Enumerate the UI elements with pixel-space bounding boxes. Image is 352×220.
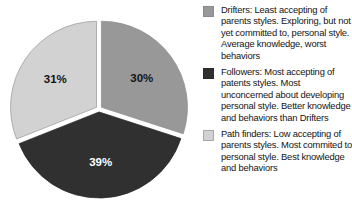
legend-swatch-drifters [203,6,214,17]
pie-svg: 30% 39% 31% [0,0,200,220]
pie-slices [11,21,188,198]
chart-legend: Drifters: Least accepting of parents sty… [203,4,352,216]
legend-swatch-path-finders [203,130,214,141]
legend-label-followers: Followers: Most accepting of patents sty… [221,66,352,123]
legend-swatch-followers [203,68,214,79]
legend-label-drifters: Drifters: Least accepting of parents sty… [221,4,352,61]
pie-label-path-finders: 31% [44,73,67,85]
pie-label-drifters: 30% [130,72,153,84]
legend-item-drifters[interactable]: Drifters: Least accepting of parents sty… [203,4,352,61]
pie-chart-figure: 30% 39% 31% Drifters: Least accepting of… [0,0,352,220]
pie-plot-area: 30% 39% 31% [0,0,200,220]
legend-item-followers[interactable]: Followers: Most accepting of patents sty… [203,66,352,123]
pie-label-followers: 39% [89,156,112,168]
legend-item-path-finders[interactable]: Path finders: Low accepting of parents s… [203,128,352,174]
legend-label-path-finders: Path finders: Low accepting of parents s… [221,128,352,174]
